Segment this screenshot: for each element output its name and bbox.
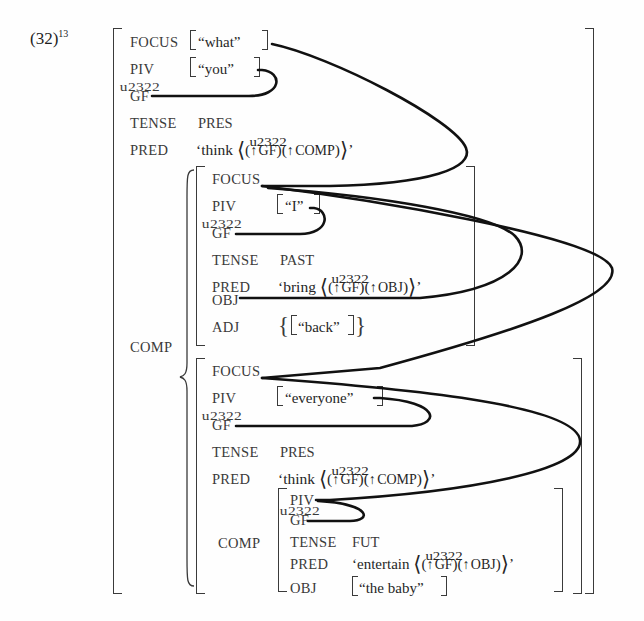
inner-c-pred-arg1: GF [435, 558, 453, 572]
gf-hat-symbol: GF [130, 89, 149, 104]
inner-b-focus-label: FOCUS [212, 364, 260, 379]
inner-b-gf-label: GF [212, 418, 231, 433]
inner-c-tense-value: FUT [352, 535, 379, 550]
up-arrow-icon-2: ↑ [369, 472, 376, 487]
inner-b-comp-label: COMP [218, 536, 260, 551]
inner-a-bracket-right [466, 166, 475, 346]
outer-tense-value: PRES [198, 116, 233, 131]
outer-piv-value-bracket-left [190, 57, 196, 77]
outer-focus-value-bracket-right [262, 30, 268, 50]
inner-b-tense-label: TENSE [212, 445, 259, 460]
angle-open-icon: ⟨ [320, 275, 328, 299]
outer-piv-value: “you” [198, 62, 234, 77]
outer-pred-head: ‘think [196, 141, 233, 158]
outer-focus-value-bracket-left [190, 30, 196, 50]
figure-canvas: (32)13 FOCUS “what” PIV “you” GF TENSE P… [0, 0, 644, 621]
inner-a-piv-value-bracket-right [314, 194, 320, 214]
outer-gf-label: GF [130, 89, 149, 104]
angle-close-icon: ⟩ [340, 138, 348, 162]
inner-c-obj-value: “the baby” [359, 581, 424, 596]
inner-b-pred-label: PRED [212, 472, 250, 487]
inner-a-adj-value-bracket-right [348, 315, 354, 335]
inner-a-pred-arg1: GF [341, 281, 359, 295]
outer-pred-arg2: COMP [295, 143, 335, 158]
inner-c-obj-value-bracket-left [352, 576, 358, 596]
inner-b-piv-value-bracket-right [377, 386, 383, 406]
outer-fstructure-bracket-left [113, 28, 122, 594]
outer-tense-label: TENSE [130, 116, 177, 131]
inner-a-adj-value-bracket-left [291, 315, 297, 335]
inner-b-piv-value: “everyone” [285, 391, 353, 406]
inner-c-tense-label: TENSE [290, 535, 337, 550]
inner-a-piv-label: PIV [212, 199, 236, 214]
angle-close-icon: ⟩ [501, 552, 509, 576]
outer-comp-label: COMP [130, 340, 172, 355]
inner-b-pred-arg1: GF [341, 473, 359, 487]
inner-a-pred-value: ‘bring ⟨(↑ GF)(↑ OBJ)⟩’ [278, 277, 421, 298]
outer-pred-arg1: GF [259, 144, 277, 158]
inner-a-piv-value: “I” [285, 199, 303, 214]
inner-c-pred-close: ’ [509, 556, 514, 572]
gf-hat-symbol: GF [212, 226, 231, 241]
inner-a-focus-label: FOCUS [212, 172, 260, 187]
footnote-marker: 13 [58, 28, 68, 39]
outer-piv-value-bracket-right [254, 57, 260, 77]
inner-c-bracket-right [554, 488, 563, 592]
outer-focus-label: FOCUS [130, 35, 178, 50]
inner-c-pred-label: PRED [290, 557, 328, 572]
curve-outer-focus-to-inner-a-focus [262, 44, 467, 186]
inner-b-pred-close: ’ [430, 470, 435, 487]
inner-b-piv-value-bracket-left [277, 386, 283, 406]
inner-b-bracket-right [573, 358, 582, 594]
inner-b-pred-value: ‘think ⟨(↑ GF)(↑ COMP)⟩’ [278, 469, 435, 490]
inner-c-gf-label: GF [290, 513, 309, 528]
outer-piv-label: PIV [130, 62, 154, 77]
outer-pred-close: ’ [348, 141, 353, 158]
gf-hat-symbol: GF [212, 418, 231, 433]
inner-c-pred-value: ‘entertain ⟨(↑ GF)(↑ OBJ)⟩’ [352, 554, 514, 575]
inner-c-pred-head: ‘entertain [352, 556, 409, 572]
adj-set-brace-open: { [278, 314, 289, 337]
inner-a-tense-value: PAST [280, 253, 314, 268]
inner-a-bracket-left [196, 166, 205, 346]
inner-a-obj-label: OBJ [212, 293, 239, 308]
up-arrow-icon-2: ↑ [287, 143, 294, 158]
inner-a-adj-value: “back” [298, 320, 340, 335]
outer-focus-value: “what” [198, 35, 240, 50]
inner-a-pred-arg2: OBJ [378, 280, 403, 295]
adj-set-brace-close: } [355, 314, 366, 337]
inner-b-bracket-left [196, 358, 205, 594]
up-arrow-icon-2: ↑ [370, 280, 377, 295]
example-number-text: (32) [30, 29, 58, 48]
inner-b-pred-arg2: COMP [377, 472, 417, 487]
inner-b-pred-head: ‘think [278, 470, 315, 487]
inner-b-tense-value: PRES [280, 445, 315, 460]
inner-a-gf-label: GF [212, 226, 231, 241]
inner-b-piv-label: PIV [212, 391, 236, 406]
inner-a-tense-label: TENSE [212, 253, 259, 268]
inner-a-pred-head: ‘bring [278, 278, 316, 295]
inner-c-obj-label: OBJ [290, 581, 317, 596]
inner-a-piv-value-bracket-left [277, 194, 283, 214]
outer-pred-label: PRED [130, 143, 168, 158]
inner-a-pred-close: ’ [416, 278, 421, 295]
inner-c-pred-arg2: OBJ [471, 557, 496, 572]
outer-fstructure-bracket-right [585, 28, 594, 594]
reentrancy-curves [0, 0, 644, 621]
angle-close-icon: ⟩ [422, 467, 430, 491]
gf-hat-symbol: GF [290, 513, 309, 528]
inner-c-obj-value-bracket-right [441, 576, 447, 596]
angle-open-icon: ⟨ [319, 467, 327, 491]
inner-a-adj-label: ADJ [212, 320, 240, 335]
up-arrow-icon-2: ↑ [463, 557, 470, 572]
outer-pred-value: ‘think ⟨(↑ GF)(↑ COMP)⟩’ [196, 140, 353, 161]
example-number: (32)13 [30, 28, 68, 49]
angle-open-icon: ⟨ [237, 138, 245, 162]
